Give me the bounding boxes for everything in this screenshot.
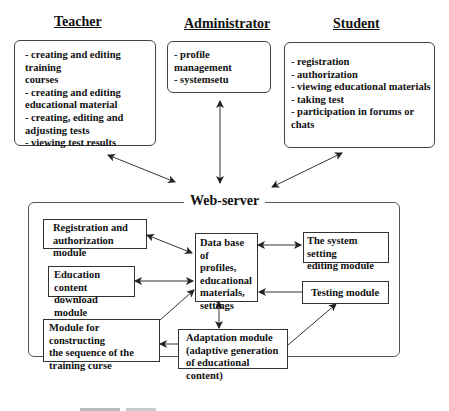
- module-line: training curse: [49, 360, 154, 373]
- administrator-item: - systemsetu: [174, 74, 270, 87]
- adaptation-module: Adaptation module (adaptive generation o…: [178, 329, 288, 369]
- teacher-item: adjusting tests: [25, 125, 155, 138]
- student-item: - participation in forums or chats: [291, 106, 434, 131]
- administrator-box: - profile management - systemsetu: [167, 41, 271, 93]
- registration-module: Registration and authorization module: [43, 219, 147, 249]
- module-line: materials,: [200, 287, 253, 300]
- module-line: Education content: [54, 269, 129, 294]
- module-line: Module for constructing: [49, 322, 154, 347]
- teacher-item: - creating, editing and: [25, 112, 155, 125]
- module-line: profiles,: [200, 262, 253, 275]
- teacher-item: courses: [25, 74, 155, 87]
- administrator-title: Administrator: [184, 16, 270, 32]
- education-content-module: Education content download module: [48, 266, 135, 297]
- module-line: settings: [200, 300, 253, 313]
- administrator-item: - profile management: [174, 49, 270, 74]
- cropped-caption: [0, 403, 449, 411]
- teacher-item: - creating and editing: [25, 87, 155, 100]
- student-item: - authorization: [291, 69, 434, 82]
- web-server-label: Web-server: [184, 193, 265, 209]
- module-line: educational: [200, 275, 253, 288]
- testing-module: Testing module: [302, 281, 389, 304]
- module-line: Data base of: [200, 237, 253, 262]
- system-setting-module: The system setting editing module: [303, 232, 389, 263]
- teacher-item: - viewing test results: [25, 137, 155, 150]
- module-line: The system setting: [307, 235, 385, 260]
- arrow-teacher-server: [108, 155, 175, 182]
- module-line: authorization module: [53, 235, 141, 260]
- student-item: - viewing educational materials: [291, 81, 434, 94]
- module-line: Registration and: [53, 222, 141, 235]
- module-line: the sequence of the: [49, 347, 154, 360]
- student-title: Student: [333, 16, 380, 32]
- arrow-student-server: [272, 153, 342, 187]
- student-item: - taking test: [291, 94, 434, 107]
- module-line: Adaptation module: [186, 332, 280, 345]
- module-line: of educational content): [186, 357, 280, 382]
- teacher-box: - creating and editing training courses …: [14, 40, 156, 146]
- student-box: - registration - authorization - viewing…: [284, 42, 435, 148]
- database-module: Data base of profiles, educational mater…: [195, 233, 258, 302]
- module-line: Testing module: [311, 287, 380, 300]
- module-line: editing module: [307, 260, 385, 273]
- student-item: - registration: [291, 56, 434, 69]
- module-line: (adaptive generation: [186, 345, 280, 358]
- teacher-item: - creating and editing training: [25, 49, 155, 74]
- teacher-title: Teacher: [54, 14, 102, 30]
- module-line: download module: [54, 294, 129, 319]
- sequence-module: Module for constructing the sequence of …: [43, 319, 160, 362]
- teacher-item: educational material: [25, 99, 155, 112]
